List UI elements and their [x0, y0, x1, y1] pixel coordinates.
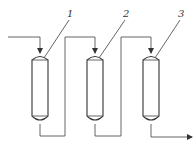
outlet-stream	[151, 124, 192, 137]
feed-stream	[8, 37, 40, 53]
column-label-2: 2	[122, 8, 129, 19]
column-2	[87, 57, 103, 121]
column-label-3: 3	[178, 8, 184, 19]
leader-line-3	[155, 20, 180, 58]
column-3	[143, 57, 159, 121]
column-label-1: 1	[67, 8, 73, 19]
column-1	[32, 57, 48, 121]
process-diagram: 1 2 3	[0, 0, 196, 145]
